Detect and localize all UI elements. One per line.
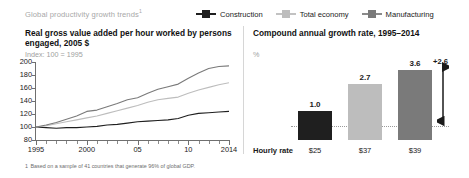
- y-tick-mark: [32, 88, 35, 89]
- x-tick-label: 1995: [28, 145, 44, 154]
- right-chart-subtitle: %: [253, 50, 259, 59]
- x-tick-mark: [77, 141, 78, 144]
- y-tick-mark: [32, 101, 35, 102]
- bar-value-label: 3.6: [398, 59, 432, 68]
- x-tick-label: 05: [133, 145, 141, 154]
- footnote-marker: 1: [25, 163, 28, 169]
- y-tick-label: 100: [10, 123, 32, 130]
- footnote-text: Based on a sample of 41 countries that g…: [31, 163, 195, 169]
- left-chart-plot-area: [36, 62, 229, 140]
- x-tick-mark: [148, 141, 149, 144]
- bar-manufacturing: [398, 70, 432, 140]
- bar-total-economy: [348, 84, 382, 140]
- x-tick-mark: [219, 141, 220, 144]
- line-series-manufacturing: [36, 66, 229, 127]
- hourly-rate-value: $37: [348, 146, 382, 155]
- y-tick-label: 80: [10, 136, 32, 143]
- left-chart-subtitle: Index: 100 = 1995: [25, 50, 83, 59]
- y-tick-mark: [32, 114, 35, 115]
- x-tick-mark: [127, 141, 128, 144]
- x-tick-mark: [199, 141, 200, 144]
- x-tick-mark: [107, 141, 108, 144]
- x-tick-mark: [66, 141, 67, 144]
- x-tick-mark: [117, 141, 118, 144]
- bar-construction: [298, 111, 332, 141]
- x-tick-label: 10: [184, 145, 192, 154]
- bar-value-label: 2.7: [348, 73, 382, 82]
- y-tick-label: 160: [10, 84, 32, 91]
- x-tick-mark: [168, 141, 169, 144]
- left-chart-x-axis: [35, 140, 230, 141]
- x-tick-mark: [97, 141, 98, 144]
- y-tick-label: 140: [10, 97, 32, 104]
- x-tick-mark: [178, 141, 179, 144]
- x-tick-mark: [209, 141, 210, 144]
- y-tick-mark: [32, 140, 35, 141]
- y-tick-mark: [32, 62, 35, 63]
- footnote: 1Based on a sample of 41 countries that …: [25, 163, 195, 169]
- left-panel: Real gross value added per hour worked b…: [0, 0, 243, 178]
- bar-value-label: 1.0: [298, 100, 332, 109]
- delta-value-label: +2.6: [433, 57, 448, 66]
- x-tick-mark: [56, 141, 57, 144]
- x-tick-label: 2014: [221, 145, 237, 154]
- hourly-rate-value: $25: [298, 146, 332, 155]
- y-tick-mark: [32, 75, 35, 76]
- hourly-rate-value: $39: [398, 146, 432, 155]
- line-series-total-economy: [36, 83, 229, 127]
- y-tick-mark: [32, 127, 35, 128]
- infographic-root: Global productivity growth trends1 Const…: [0, 0, 469, 178]
- delta-arrow-icon: [437, 60, 449, 128]
- y-tick-label: 180: [10, 71, 32, 78]
- y-tick-label: 200: [10, 58, 32, 65]
- hourly-rate-label: Hourly rate: [253, 146, 293, 155]
- x-tick-mark: [46, 141, 47, 144]
- left-chart-title: Real gross value added per hour worked b…: [25, 28, 235, 48]
- x-tick-mark: [158, 141, 159, 144]
- x-tick-label: 2000: [79, 145, 95, 154]
- y-tick-label: 120: [10, 110, 32, 117]
